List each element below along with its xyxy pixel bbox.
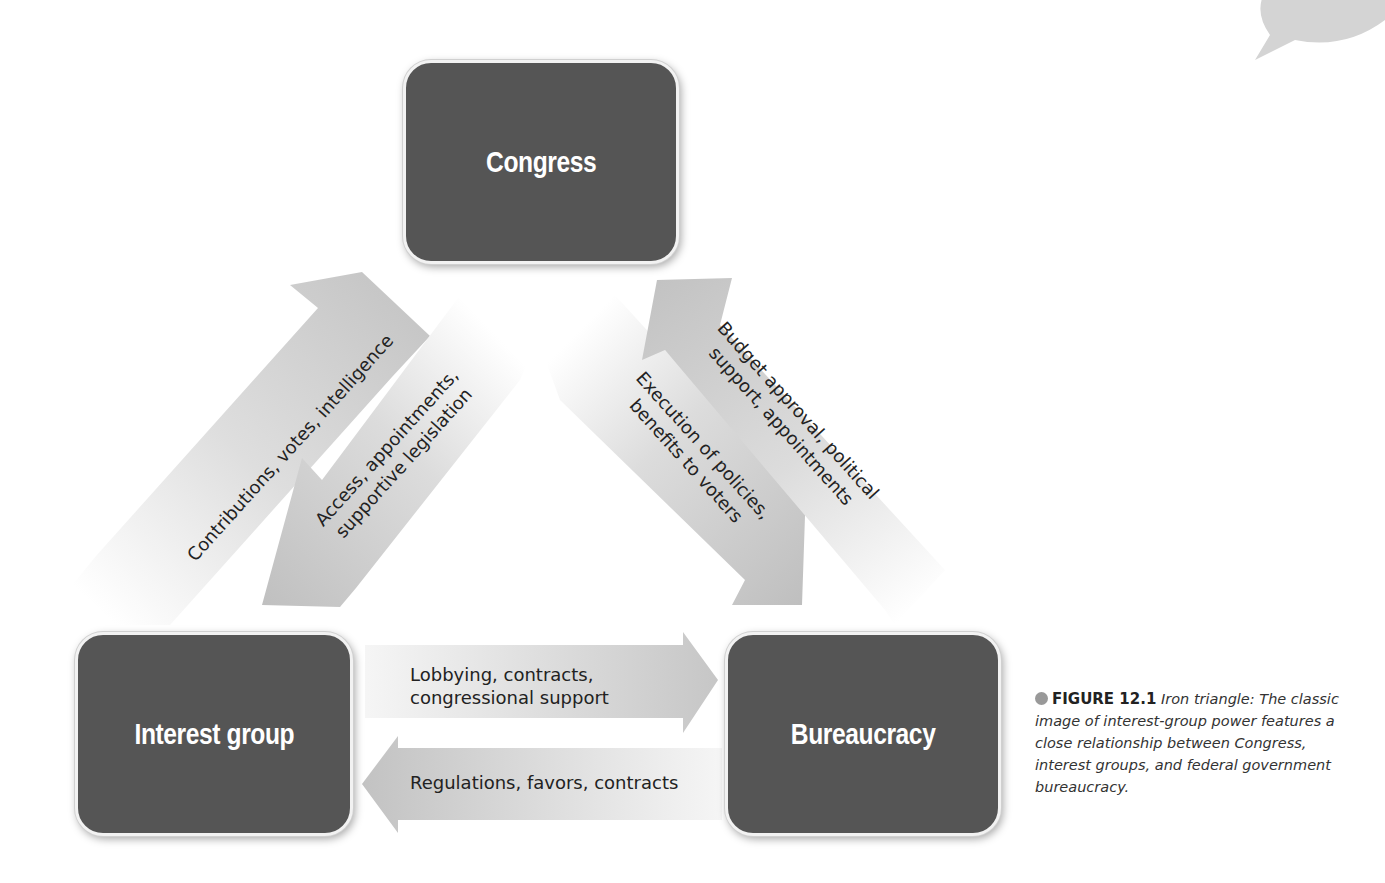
edge-label-bureau-to-ig: Regulations, favors, contracts [410, 771, 678, 794]
edge-label-line: Lobbying, contracts, [410, 663, 609, 686]
figure-title: Iron triangle: [1161, 691, 1255, 707]
node-label: Interest group [134, 717, 294, 751]
edge-label-ig-to-bureau: Lobbying, contracts, congressional suppo… [410, 663, 609, 709]
caption-bullet-icon [1035, 692, 1048, 705]
edge-label-line: congressional support [410, 686, 609, 709]
edge-label-line: Regulations, favors, contracts [410, 771, 678, 794]
figure-caption: FIGURE 12.1 Iron triangle: The classic i… [1035, 688, 1365, 798]
node-congress: Congress [403, 60, 679, 264]
node-label: Congress [486, 145, 596, 179]
node-bureaucracy: Bureaucracy [725, 632, 1001, 836]
node-label: Bureaucracy [791, 717, 936, 751]
node-interest-group: Interest group [75, 632, 353, 836]
figure-number: FIGURE 12.1 [1052, 690, 1156, 708]
